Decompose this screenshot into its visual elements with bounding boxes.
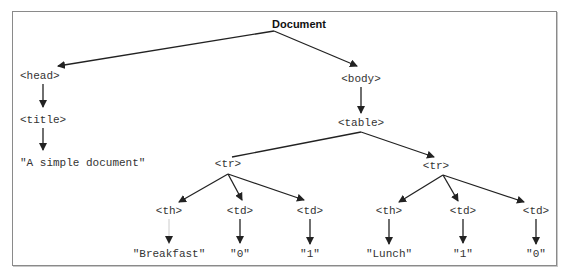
node-text-breakfast: "Breakfast"	[133, 249, 206, 260]
node-text-0-b: "0"	[526, 249, 546, 260]
node-text-1-b: "1"	[453, 249, 473, 260]
node-head: <head>	[20, 71, 60, 82]
node-title: <title>	[20, 115, 66, 126]
node-document: Document	[272, 18, 326, 30]
node-th-1: <th>	[156, 206, 182, 217]
node-td-2-1: <td>	[450, 206, 476, 217]
node-tr-1: <tr>	[215, 159, 241, 170]
node-text-lunch: "Lunch"	[366, 249, 412, 260]
node-text-0-a: "0"	[230, 249, 250, 260]
node-td-1-2: <td>	[297, 206, 323, 217]
node-td-1-1: <td>	[227, 206, 253, 217]
node-tr-2: <tr>	[423, 161, 449, 172]
tree-edges	[0, 0, 566, 277]
node-text-1-a: "1"	[300, 249, 320, 260]
node-body: <body>	[341, 74, 381, 85]
node-table: <table>	[338, 118, 384, 129]
node-th-2: <th>	[376, 206, 402, 217]
node-title-text: "A simple document"	[20, 158, 145, 169]
node-td-2-2: <td>	[523, 206, 549, 217]
